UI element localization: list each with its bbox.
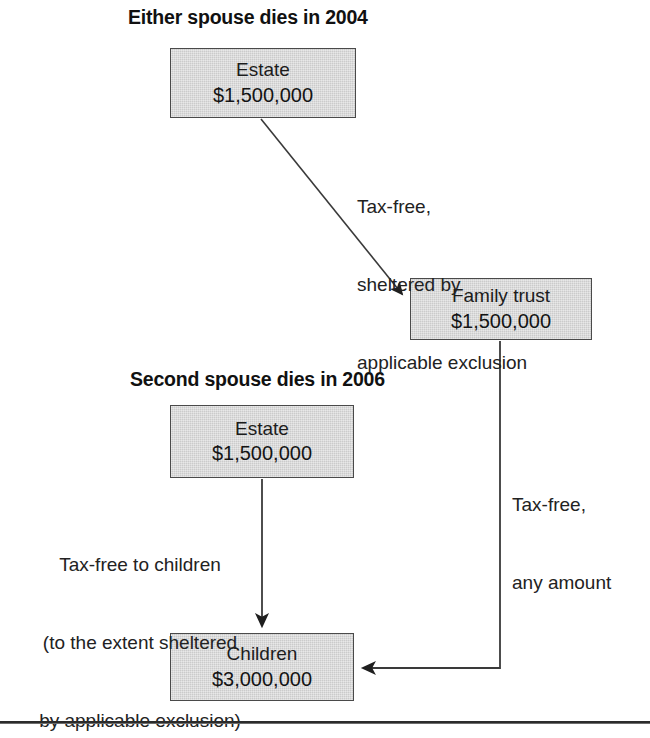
section-heading-second: Second spouse dies in 2006 [130, 368, 385, 391]
section-heading-first: Either spouse dies in 2004 [128, 6, 368, 29]
node-estate-2004-amount: $1,500,000 [213, 83, 313, 107]
edge-label-estate-to-trust-line2: sheltered by [357, 272, 527, 298]
edge-label-estate-to-trust: Tax-free, sheltered by applicable exclus… [357, 142, 527, 428]
edge-label-estate-to-trust-line1: Tax-free, [357, 194, 527, 220]
node-estate-2006: Estate $1,500,000 [170, 405, 354, 478]
node-estate-2006-title: Estate [235, 418, 289, 441]
edge-label-estate2006-to-children-line2: (to the extent sheltered [28, 630, 252, 656]
node-estate-2004-title: Estate [236, 59, 290, 82]
edge-label-estate2006-to-children-line1: Tax-free to children [28, 552, 252, 578]
estate-tax-flow-diagram: Either spouse dies in 2004 Second spouse… [0, 0, 650, 738]
footer-divider [0, 721, 650, 724]
edge-label-trust-to-children-line2: any amount [512, 570, 611, 596]
node-estate-2004: Estate $1,500,000 [170, 48, 356, 118]
edge-label-trust-to-children-line1: Tax-free, [512, 492, 611, 518]
edge-label-estate-to-trust-line3: applicable exclusion [357, 350, 527, 376]
edge-label-estate2006-to-children: Tax-free to children (to the extent shel… [28, 500, 252, 738]
node-estate-2006-amount: $1,500,000 [212, 441, 312, 465]
edge-label-trust-to-children: Tax-free, any amount [512, 440, 611, 648]
